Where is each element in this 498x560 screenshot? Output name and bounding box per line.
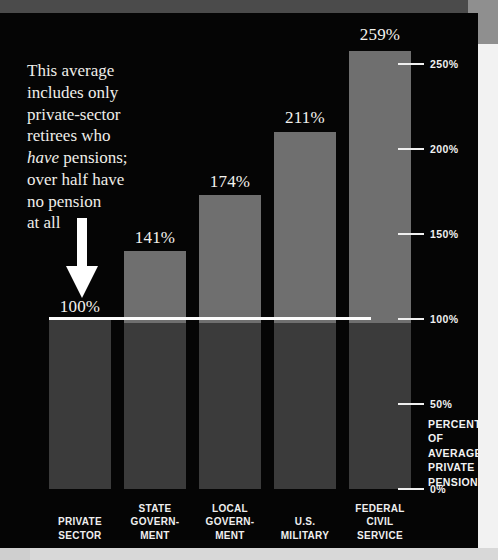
tick-label: 50% bbox=[430, 398, 452, 410]
bar-value-label-us-military: 211% bbox=[255, 108, 355, 128]
category-label-state-government: STATE GOVERN- MENT bbox=[115, 502, 195, 543]
bar-segment-below-baseline bbox=[49, 320, 111, 489]
axis-title-line-4: PRIVATE bbox=[428, 461, 475, 473]
category-line-3: MENT bbox=[140, 530, 170, 541]
reference-line-100-percent bbox=[49, 317, 371, 320]
tick-label: 250% bbox=[430, 58, 458, 70]
category-line-1: FEDERAL bbox=[355, 503, 404, 514]
tick-mark bbox=[398, 488, 424, 490]
annotation-line-2: includes only bbox=[27, 83, 118, 102]
category-line-2: GOVERN- bbox=[206, 516, 255, 527]
y-axis: 250% 200% 150% 100% 50% bbox=[398, 13, 478, 548]
chart-screenshot: 100% 141% 174% 211% bbox=[0, 0, 498, 560]
category-line-1: PRIVATE bbox=[58, 516, 102, 527]
axis-title-line-1: PERCENT bbox=[428, 418, 481, 430]
tick-label: 200% bbox=[430, 143, 458, 155]
bar-segment-above-baseline bbox=[124, 251, 186, 323]
tick-mark bbox=[398, 233, 424, 235]
annotation-private-sector-note: This average includes only private-secto… bbox=[27, 60, 177, 234]
category-line-1: STATE bbox=[139, 503, 172, 514]
bar-us-military[interactable] bbox=[274, 132, 336, 489]
bar-state-government[interactable] bbox=[124, 251, 186, 489]
axis-tick-200: 200% bbox=[398, 143, 458, 155]
annotation-line-3: private-sector bbox=[27, 105, 120, 124]
category-line-2: GOVERN- bbox=[131, 516, 180, 527]
category-label-private-sector: PRIVATE SECTOR bbox=[40, 515, 120, 542]
chart-panel: 100% 141% 174% 211% bbox=[0, 13, 478, 548]
category-line-2: MILITARY bbox=[281, 530, 330, 541]
axis-title-line-5: PENSION bbox=[428, 476, 478, 488]
category-line-1: LOCAL bbox=[212, 503, 248, 514]
axis-tick-100: 100% bbox=[398, 313, 458, 325]
annotation-line-5-rest: pensions; bbox=[59, 148, 127, 167]
down-arrow-icon bbox=[64, 218, 100, 300]
axis-tick-50: 50% bbox=[398, 398, 452, 410]
axis-title-line-2: OF bbox=[428, 432, 443, 444]
category-line-2: SECTOR bbox=[58, 530, 101, 541]
category-label-local-government: LOCAL GOVERN- MENT bbox=[190, 502, 270, 543]
tick-label: 150% bbox=[430, 228, 458, 240]
category-line-3: MENT bbox=[215, 530, 245, 541]
tick-label: 100% bbox=[430, 313, 458, 325]
frame-top-strip bbox=[0, 0, 498, 13]
tick-mark bbox=[398, 318, 424, 320]
y-axis-title: PERCENT OF AVERAGE PRIVATE PENSION bbox=[428, 417, 482, 489]
axis-title-line-3: AVERAGE bbox=[428, 447, 482, 459]
bar-segment-below-baseline bbox=[274, 323, 336, 489]
category-label-federal-civil-service: FEDERAL CIVIL SERVICE bbox=[340, 502, 420, 543]
axis-tick-250: 250% bbox=[398, 58, 458, 70]
bar-local-government[interactable] bbox=[199, 195, 261, 489]
tick-mark bbox=[398, 148, 424, 150]
annotation-line-1: This average bbox=[27, 61, 114, 80]
plot-area: 100% 141% 174% 211% bbox=[0, 13, 478, 548]
annotation-line-6: over half have bbox=[27, 170, 124, 189]
annotation-line-7: no pension bbox=[27, 192, 101, 211]
frame-bottom-margin bbox=[0, 548, 498, 560]
bar-value-label-local-government: 174% bbox=[180, 172, 280, 192]
annotation-line-4: retirees who bbox=[27, 126, 111, 145]
bar-segment-above-baseline bbox=[274, 132, 336, 323]
bar-segment-below-baseline bbox=[124, 323, 186, 489]
tick-mark bbox=[398, 403, 424, 405]
annotation-line-8: at all bbox=[27, 213, 61, 232]
bar-segment-above-baseline bbox=[199, 195, 261, 323]
axis-tick-150: 150% bbox=[398, 228, 458, 240]
bar-private-sector[interactable] bbox=[49, 320, 111, 489]
category-line-2: CIVIL bbox=[366, 516, 393, 527]
frame-bottom-left-margin bbox=[0, 548, 30, 560]
category-label-us-military: U.S. MILITARY bbox=[265, 515, 345, 542]
category-line-3: SERVICE bbox=[357, 530, 403, 541]
tick-mark bbox=[398, 63, 424, 65]
annotation-emphasis-have: have bbox=[27, 148, 59, 167]
bar-segment-below-baseline bbox=[199, 323, 261, 489]
category-line-1: U.S. bbox=[295, 516, 316, 527]
bar-value-label-private-sector: 100% bbox=[30, 297, 130, 317]
